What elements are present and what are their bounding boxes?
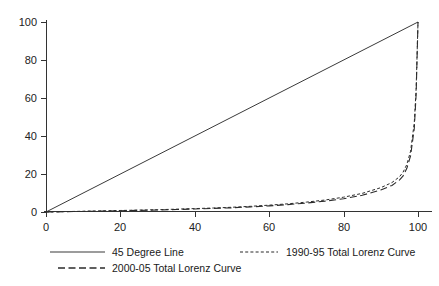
x-tick-label: 20 xyxy=(114,221,126,233)
y-tick-label: 0 xyxy=(31,206,37,218)
legend-label: 45 Degree Line xyxy=(112,246,184,258)
x-axis-tick-labels: 0 20 40 60 80 100 xyxy=(43,221,427,233)
x-tick-label: 40 xyxy=(189,221,201,233)
legend-item-2000-05-lorenz: 2000-05 Total Lorenz Curve xyxy=(58,262,242,274)
y-tick-label: 60 xyxy=(25,92,37,104)
x-axis-ticks xyxy=(46,212,418,217)
lorenz-curve-chart: 100 80 60 40 20 0 0 20 40 60 80 100 xyxy=(0,0,439,286)
x-tick-label: 100 xyxy=(409,221,427,233)
legend-label: 1990-95 Total Lorenz Curve xyxy=(286,246,416,258)
y-axis-ticks xyxy=(41,22,46,212)
legend-label: 2000-05 Total Lorenz Curve xyxy=(112,262,242,274)
y-tick-label: 80 xyxy=(25,54,37,66)
y-axis-tick-labels: 100 80 60 40 20 0 xyxy=(19,16,37,218)
legend-item-1990-95-lorenz: 1990-95 Total Lorenz Curve xyxy=(240,246,416,258)
y-tick-label: 20 xyxy=(25,168,37,180)
x-tick-label: 80 xyxy=(338,221,350,233)
x-tick-label: 0 xyxy=(43,221,49,233)
chart-canvas: 100 80 60 40 20 0 0 20 40 60 80 100 xyxy=(0,0,439,286)
y-tick-label: 40 xyxy=(25,130,37,142)
chart-legend: 45 Degree Line 1990-95 Total Lorenz Curv… xyxy=(50,246,416,274)
y-tick-label: 100 xyxy=(19,16,37,28)
legend-item-45-degree-line: 45 Degree Line xyxy=(50,246,184,258)
series-45-degree-line xyxy=(46,22,418,212)
x-tick-label: 60 xyxy=(263,221,275,233)
